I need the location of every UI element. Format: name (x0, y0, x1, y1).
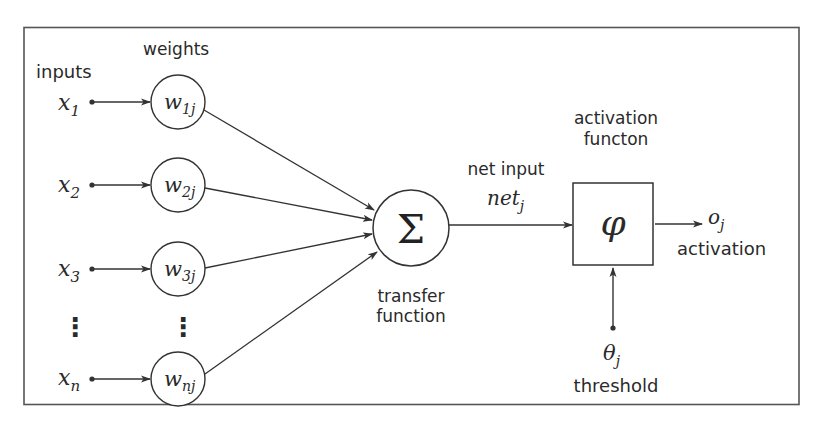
net-input-label: net input (467, 159, 544, 179)
activation-label: activation (677, 238, 766, 259)
threshold-variable: θj (603, 341, 621, 369)
transfer-function-label: transfer (377, 286, 444, 306)
activation-function-label: activation (574, 108, 658, 128)
input-x3: x3 (58, 256, 80, 286)
neuron-diagram: weights inputs x1 w1j x2 w2j x3 w3j ⋮ ⋮ … (0, 0, 818, 425)
input-row-3: x3 w3j (58, 234, 372, 296)
sigma-symbol: Σ (397, 206, 425, 252)
input-ellipsis: ⋮ (62, 312, 88, 342)
input-xn: xn (58, 365, 80, 395)
input-row-n: xn wnj (58, 252, 377, 406)
weights-label: weights (143, 39, 209, 59)
input-x1: x1 (58, 90, 80, 120)
weight-ellipsis: ⋮ (170, 312, 196, 342)
inputs-label: inputs (36, 61, 92, 82)
threshold-dot (610, 325, 615, 330)
output-variable: oj (708, 205, 725, 233)
transfer-function-label-2: function (376, 306, 445, 326)
threshold-label: threshold (574, 375, 659, 396)
net-variable: netj (487, 186, 525, 214)
input-row-2: x2 w2j (58, 158, 372, 220)
phi-symbol: φ (600, 202, 626, 243)
activation-function-label-2: functon (584, 129, 649, 149)
input-x2: x2 (58, 172, 80, 202)
